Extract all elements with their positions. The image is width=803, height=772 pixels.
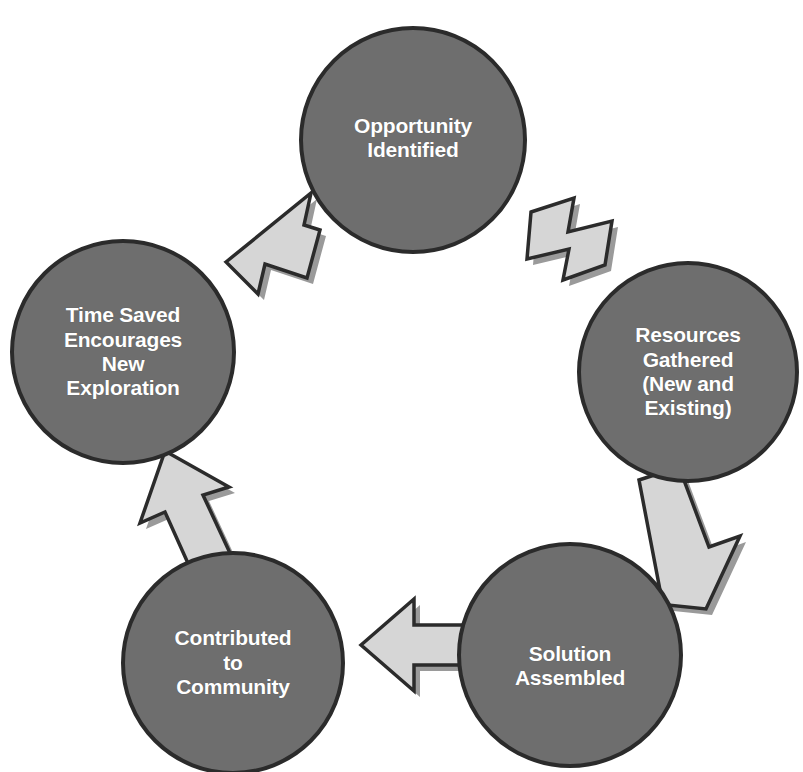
node-hit-resources-gathered[interactable] bbox=[579, 263, 797, 481]
cycle-diagram: Opportunity Identified Resources Gathere… bbox=[0, 0, 803, 772]
arrow-time-saved-to-opportunity-body bbox=[226, 193, 320, 294]
node-hit-solution-assembled[interactable] bbox=[459, 544, 681, 766]
arrow-opportunity-to-resources-body bbox=[527, 198, 612, 280]
node-hit-opportunity-identified[interactable] bbox=[301, 28, 525, 252]
arrow-time-saved-to-opportunity[interactable] bbox=[226, 193, 326, 300]
arrow-solution-to-contributed-body bbox=[361, 599, 466, 691]
arrow-solution-to-contributed[interactable] bbox=[361, 599, 472, 697]
node-hit-time-saved-encourages-new-exploration[interactable] bbox=[12, 241, 234, 463]
arrow-contributed-to-time-saved-body bbox=[140, 451, 230, 570]
node-hit-contributed-to-community[interactable] bbox=[123, 553, 343, 772]
arrow-opportunity-to-resources[interactable] bbox=[527, 198, 618, 286]
